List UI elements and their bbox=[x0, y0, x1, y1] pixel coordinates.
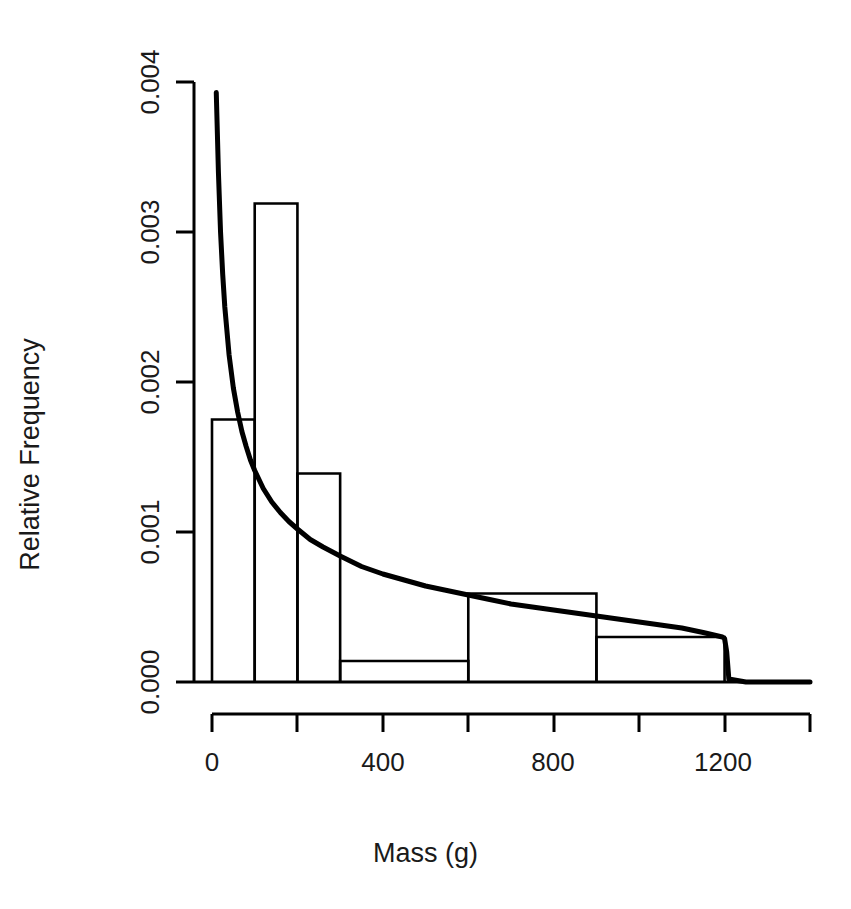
plot-area bbox=[0, 0, 851, 909]
figure-canvas: ........ ... ....... Relative Frequency … bbox=[0, 0, 851, 909]
histogram-bar bbox=[255, 204, 298, 683]
histogram-bar bbox=[340, 661, 468, 682]
x-axis bbox=[212, 714, 810, 732]
histogram-bar bbox=[596, 637, 724, 682]
y-axis bbox=[176, 82, 194, 682]
histogram-bars bbox=[212, 204, 725, 683]
histogram-bar bbox=[297, 474, 340, 683]
